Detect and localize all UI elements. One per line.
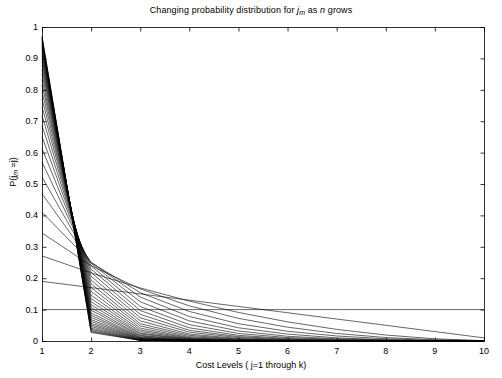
data-curve <box>42 36 484 341</box>
data-curve <box>42 177 484 341</box>
y-tick-label: 0.3 <box>25 242 38 252</box>
y-tick-label: 0.9 <box>25 53 38 63</box>
x-tick-label: 4 <box>187 346 192 356</box>
data-curve <box>42 69 484 341</box>
data-curve <box>42 79 484 341</box>
y-tick-label: 0.2 <box>25 273 38 283</box>
data-curve <box>42 99 484 341</box>
xlabel-suffix: ) <box>303 360 306 370</box>
y-axis-label: P(jm =j) <box>8 157 18 187</box>
data-curve <box>42 107 484 341</box>
y-tick-label: 0.8 <box>25 85 38 95</box>
x-tick-label: 8 <box>383 346 388 356</box>
x-tick-label: 10 <box>479 346 489 356</box>
data-curve <box>42 46 484 341</box>
x-tick-label: 1 <box>39 346 44 356</box>
y-tick-label: 0.6 <box>25 148 38 158</box>
data-curve <box>42 65 484 341</box>
curve-group <box>42 36 484 341</box>
y-tick-label: 0.5 <box>25 179 38 189</box>
ylabel-middle: = <box>8 162 18 170</box>
chart-figure: Changing probability distribution for jm… <box>0 0 502 378</box>
data-curve <box>42 126 484 341</box>
data-curve <box>42 149 484 341</box>
x-axis-label: Cost Levels ( j=1 through k) <box>0 360 502 370</box>
data-curve <box>42 92 484 341</box>
y-tick-label: 0.1 <box>25 305 38 315</box>
ylabel-var-jm: jm <box>8 170 18 178</box>
data-curve <box>42 162 484 341</box>
x-tick-label: 3 <box>138 346 143 356</box>
data-curve <box>42 50 484 341</box>
y-tick-label: 0 <box>33 336 38 346</box>
data-curve <box>42 44 484 341</box>
data-curve <box>42 85 484 341</box>
data-curve <box>42 48 484 341</box>
x-tick-label: 7 <box>334 346 339 356</box>
y-tick-label: 0.7 <box>25 116 38 126</box>
x-tick-label: 2 <box>89 346 94 356</box>
y-tick-label: 0.4 <box>25 210 38 220</box>
data-curve <box>42 41 484 341</box>
ylabel-var-j: j <box>8 160 18 162</box>
y-axis-label-wrapper: P(jm =j) <box>2 117 20 227</box>
data-curve <box>42 39 484 341</box>
ylabel-suffix: ) <box>8 157 18 160</box>
data-curve <box>42 42 484 341</box>
xlabel-prefix: Cost Levels ( <box>196 360 251 370</box>
xlabel-middle: =1 through <box>253 360 299 370</box>
data-curve <box>42 62 484 341</box>
y-tick-label: 1 <box>33 22 38 32</box>
x-tick-label: 9 <box>432 346 437 356</box>
x-tick-label: 5 <box>236 346 241 356</box>
data-curve <box>42 37 484 341</box>
plot-canvas <box>0 0 502 378</box>
ylabel-prefix: P( <box>8 178 18 187</box>
data-curve <box>42 38 484 341</box>
x-tick-label: 6 <box>285 346 290 356</box>
data-curve <box>42 256 484 341</box>
data-curve <box>42 58 484 341</box>
